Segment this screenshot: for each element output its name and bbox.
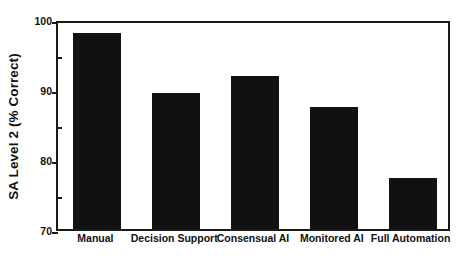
plot-area	[56, 21, 450, 231]
bar-slot	[58, 19, 137, 229]
bar-series	[58, 23, 448, 229]
bar-chart-figure: SA Level 2 (% Correct) 100908070 ManualD…	[0, 0, 469, 267]
x-axis-tick-labels: ManualDecision SupportConsensual AIMonit…	[56, 233, 450, 255]
bar-slot	[294, 19, 373, 229]
x-tick-label: Full Automation	[371, 233, 451, 245]
y-tick-label: 90	[26, 86, 52, 97]
y-axis-tick-labels: 100908070	[22, 0, 52, 267]
x-tick-label: Consensual AI	[217, 233, 290, 245]
bar-slot	[137, 19, 216, 229]
bar	[152, 93, 200, 230]
bar-slot	[216, 19, 295, 229]
y-tick-label: 70	[26, 226, 52, 237]
y-axis-title: SA Level 2 (% Correct)	[6, 53, 21, 200]
bar	[389, 178, 437, 229]
x-tick-label: Manual	[77, 233, 113, 245]
y-tick-label: 100	[26, 16, 52, 27]
y-tick-label: 80	[26, 156, 52, 167]
x-tick-label: Decision Support	[131, 233, 218, 245]
x-tick-label: Monitored AI	[300, 233, 364, 245]
bar	[231, 76, 279, 229]
bar-slot	[373, 19, 452, 229]
bar	[73, 33, 121, 229]
bar	[310, 107, 358, 230]
